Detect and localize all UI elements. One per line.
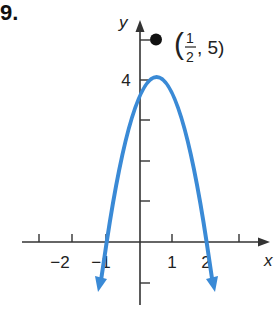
x-ticks [39,234,239,242]
x-tick-label-1: 1 [167,253,176,272]
svg-text:, 5): , 5) [197,37,224,58]
problem-number: 9. [0,0,18,25]
parabola-curve [101,77,213,283]
y-axis-arrow-icon [136,20,145,32]
svg-text:2: 2 [186,49,194,65]
y-axis-label: y [118,13,129,32]
curve-left-arrow-icon [95,276,107,292]
parabola-chart: 9. −2 −1 1 2 4 x y ( 1 2 , 5) [0,0,280,311]
vertex-label: ( 1 2 , 5) [174,27,224,65]
x-axis-label: x [263,251,273,270]
svg-text:1: 1 [186,30,194,46]
x-axis-arrow-icon [258,238,270,247]
x-tick-label-neg2: −2 [50,253,69,272]
vertex-point [150,34,162,46]
y-ticks [140,40,150,283]
y-tick-label-4: 4 [121,71,130,90]
svg-text:(: ( [174,27,184,60]
curve-right-arrow-icon [206,276,218,292]
